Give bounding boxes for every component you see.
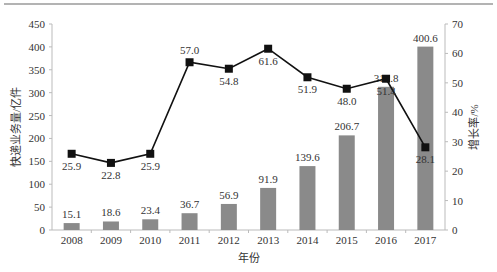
line-value-label: 51.4 [376,85,396,97]
line-value-label: 28.1 [416,153,435,165]
square-marker-icon [303,73,311,81]
line-value-label: 22.8 [101,169,121,181]
left-tick-label: 100 [29,178,46,190]
bar [142,219,158,230]
x-tick-label: 2008 [61,234,84,246]
right-tick-label: 0 [452,224,458,236]
right-axis-title: 增长率/% [467,104,480,149]
x-tick-label: 2009 [100,234,123,246]
left-y-axis: 050100150200250300350400450 [29,18,53,236]
bar-value-label: 23.4 [141,204,161,216]
x-tick-label: 2011 [179,234,201,246]
left-tick-label: 0 [40,224,46,236]
combo-chart: 050100150200250300350400450 010203040506… [0,0,497,272]
line-value-label: 25.9 [62,160,82,172]
bar-value-label: 400.6 [413,32,438,44]
x-tick-label: 2017 [414,234,437,246]
right-tick-label: 30 [452,136,464,148]
left-tick-label: 300 [29,87,46,99]
line-value-label: 61.6 [259,55,279,67]
x-axis-title: 年份 [238,251,260,264]
line-value-label: 51.9 [298,83,318,95]
square-marker-icon [421,143,429,151]
bar [182,213,198,230]
bar-value-label: 18.6 [101,206,121,218]
right-y-axis: 010203040506070 [445,18,464,236]
right-tick-label: 40 [452,106,464,118]
left-tick-label: 450 [29,18,46,30]
bar-series: 15.118.623.436.756.991.9139.6206.7312.84… [62,32,438,230]
bar [260,188,276,230]
square-marker-icon [264,45,272,53]
bar-value-label: 15.1 [62,208,81,220]
right-tick-label: 60 [452,47,464,59]
bar [339,135,355,230]
right-tick-label: 10 [452,195,464,207]
bar-value-label: 91.9 [259,173,279,185]
line-value-label: 48.0 [337,95,357,107]
square-marker-icon [68,150,76,158]
square-marker-icon [343,85,351,93]
x-tick-label: 2010 [139,234,162,246]
bar [299,166,315,230]
x-tick-label: 2014 [296,234,319,246]
square-marker-icon [107,159,115,167]
bar-value-label: 36.7 [180,198,200,210]
left-tick-label: 50 [34,201,46,213]
bar [64,223,80,230]
bar-value-label: 206.7 [334,120,359,132]
right-tick-label: 20 [452,165,464,177]
x-axis: 2008200920102011201220132014201520162017 [52,230,445,246]
x-tick-label: 2013 [257,234,280,246]
line-value-label: 54.8 [219,75,239,87]
square-marker-icon [186,58,194,66]
left-tick-label: 200 [29,132,46,144]
x-tick-label: 2016 [375,234,398,246]
bar [221,204,237,230]
left-tick-label: 150 [29,155,46,167]
bar-value-label: 56.9 [219,189,239,201]
square-marker-icon [225,65,233,73]
bar [103,221,119,230]
right-tick-label: 50 [452,77,464,89]
square-marker-icon [382,75,390,83]
right-tick-label: 70 [452,18,464,30]
x-tick-label: 2015 [336,234,359,246]
left-tick-label: 400 [29,41,46,53]
x-tick-label: 2012 [218,234,240,246]
left-tick-label: 250 [29,110,46,122]
bar [378,87,394,230]
bar-value-label: 139.6 [295,151,320,163]
line-value-label: 25.9 [141,160,161,172]
square-marker-icon [146,150,154,158]
chart-container: 050100150200250300350400450 010203040506… [0,0,497,272]
growth-line [72,49,426,163]
line-value-label: 57.0 [180,44,200,56]
left-axis-title: 快递业务量/亿件 [9,87,22,167]
left-tick-label: 350 [29,64,46,76]
